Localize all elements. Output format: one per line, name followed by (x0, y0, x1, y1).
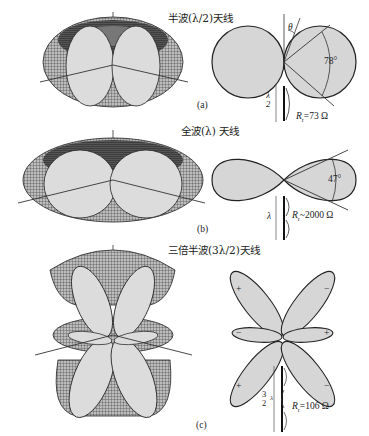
length-label-a: λ 2 (266, 91, 270, 109)
resistance-label-b: Rr~2000 Ω (292, 210, 333, 222)
caption-b: (b) (197, 224, 208, 234)
length-den-a: 2 (266, 99, 270, 109)
pattern-2d-full-wave (212, 150, 356, 240)
length-label-b: λ (267, 211, 271, 221)
lobe-sign-upper-left: + (236, 284, 241, 294)
angle-theta-label: θ (288, 22, 293, 32)
length-label-c: 3 2 (262, 390, 266, 408)
caption-c: (c) (196, 420, 207, 430)
beamwidth-label-b: 47° (328, 174, 341, 184)
caption-a: (a) (197, 100, 208, 110)
torus-3d-full-wave (18, 130, 205, 222)
resistance-label-c: Rr=106 Ω (292, 401, 329, 413)
beamwidth-label-a: 78° (324, 56, 337, 66)
pattern-3d-three-half-wave (35, 245, 192, 424)
pattern-2d-half-wave (212, 14, 356, 122)
length-unit-c: λ (270, 394, 273, 402)
title-three-half-wave: 三倍半波(3λ/2)天线 (168, 242, 260, 257)
resistance-label-a: Rr=73 Ω (296, 111, 328, 123)
lobe-sign-lower-left: + (236, 381, 241, 391)
title-half-wave: 半波(λ/2)天线 (168, 10, 233, 25)
lobe-sign-lower-right: − (324, 381, 329, 391)
lobe-sign-mid-right: + (324, 328, 329, 338)
torus-3d-half-wave (40, 12, 188, 107)
lobe-sign-upper-right: − (324, 284, 329, 294)
lobe-sign-mid-left: − (236, 328, 241, 338)
title-full-wave: 全波(λ) 天线 (181, 123, 239, 138)
